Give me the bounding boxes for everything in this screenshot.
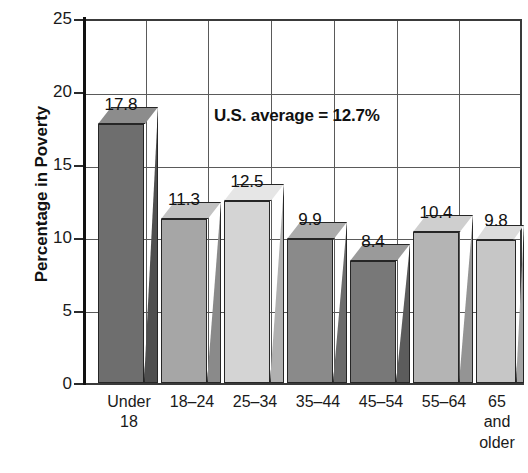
x-tick-label-line1: 55–64 bbox=[413, 392, 475, 412]
bar-value-label-2: 11.3 bbox=[153, 191, 215, 208]
bar-value-label-7: 9.8 bbox=[470, 212, 522, 229]
bar-side-face bbox=[396, 244, 410, 383]
bar-45-54 bbox=[350, 0, 410, 383]
bar-front-face bbox=[287, 239, 333, 383]
x-tick-label-line1: 18–24 bbox=[161, 392, 223, 412]
us-average-annotation: U.S. average = 12.7% bbox=[214, 106, 380, 126]
bar-55-64 bbox=[413, 0, 473, 383]
x-tick-label-line1: 45–54 bbox=[350, 392, 412, 412]
x-tick-label-25-34: 25–34 bbox=[224, 392, 286, 412]
bar-value-label-5: 8.4 bbox=[342, 233, 404, 250]
x-tick-label-line1: 25–34 bbox=[224, 392, 286, 412]
bar-front-face bbox=[476, 240, 516, 383]
bar-side-face bbox=[459, 215, 473, 383]
x-tick-label-65-and-older: 65 and older bbox=[470, 392, 524, 453]
bar-value-label-4: 9.9 bbox=[279, 211, 341, 228]
bar-front-face bbox=[413, 232, 459, 383]
x-tick-label-line1: Under bbox=[98, 392, 160, 412]
x-tick-label-35-44: 35–44 bbox=[287, 392, 349, 412]
bar-front-face bbox=[161, 219, 207, 383]
bar-65-and-older bbox=[476, 0, 524, 383]
x-tick-label-line1: 35–44 bbox=[287, 392, 349, 412]
x-tick-label-line2: and bbox=[470, 412, 524, 432]
bar-value-label-1: 17.8 bbox=[90, 96, 152, 113]
x-tick-label-55-64: 55–64 bbox=[413, 392, 475, 412]
bar-front-face bbox=[98, 124, 144, 383]
x-tick-label-line3: older bbox=[470, 433, 524, 453]
bar-25-34 bbox=[224, 0, 284, 383]
bar-side-face bbox=[207, 202, 221, 383]
poverty-by-age-bar-chart: Percentage in Poverty 25 20 15 10 5 0 bbox=[0, 0, 528, 473]
bar-value-label-6: 10.4 bbox=[405, 204, 467, 221]
bar-under-18 bbox=[98, 0, 158, 383]
bar-side-face bbox=[516, 225, 524, 383]
x-tick-label-18-24: 18–24 bbox=[161, 392, 223, 412]
bar-value-label-3: 12.5 bbox=[216, 173, 278, 190]
x-tick-label-line2: 18 bbox=[98, 412, 160, 432]
bar-side-face bbox=[144, 107, 158, 383]
bar-35-44 bbox=[287, 0, 347, 383]
x-tick-label-line1: 65 bbox=[470, 392, 524, 412]
x-tick-label-under-18: Under 18 bbox=[98, 392, 160, 433]
bar-front-face bbox=[224, 201, 270, 383]
x-tick-label-45-54: 45–54 bbox=[350, 392, 412, 412]
bar-front-face bbox=[350, 261, 396, 383]
